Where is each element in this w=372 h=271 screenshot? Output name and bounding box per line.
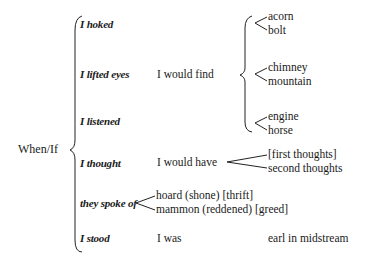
- option-engine: engine: [268, 110, 299, 123]
- result-earl: earl in midstream: [268, 232, 348, 245]
- option-acorn: acorn: [268, 10, 294, 23]
- option-mammon: mammon (reddened) [greed]: [156, 203, 288, 216]
- option-horse: horse: [268, 124, 293, 137]
- root-label: When/If: [18, 143, 58, 156]
- consequent-was: I was: [157, 232, 182, 245]
- option-mountain: mountain: [268, 75, 311, 88]
- find-brace: [240, 16, 252, 132]
- option-bolt: bolt: [268, 24, 286, 37]
- condition-spoke-of: they spoke of: [80, 197, 137, 210]
- chevron-acorn-bolt: [255, 17, 267, 30]
- main-brace: [70, 16, 82, 252]
- chevron-thoughts: [227, 155, 267, 168]
- option-hoard: hoard (shone) [thrift]: [156, 189, 253, 202]
- consequent-would-have: I would have: [157, 156, 217, 169]
- condition-stood: I stood: [80, 232, 109, 245]
- diagram-connector-lines: [0, 0, 372, 271]
- chevron-chimney-mountain: [255, 68, 267, 81]
- condition-lifted-eyes: I lifted eyes: [80, 68, 129, 81]
- consequent-would-find: I would find: [157, 68, 214, 81]
- option-first-thoughts: [first thoughts]: [268, 148, 337, 161]
- chevron-engine-horse: [255, 117, 267, 130]
- chevron-hoard-mammon: [136, 196, 155, 210]
- option-chimney: chimney: [268, 61, 308, 74]
- option-second-thoughts: second thoughts: [268, 162, 342, 175]
- condition-thought: I thought: [80, 157, 121, 170]
- condition-listened: I listened: [80, 115, 120, 128]
- condition-hoked: I hoked: [80, 18, 113, 31]
